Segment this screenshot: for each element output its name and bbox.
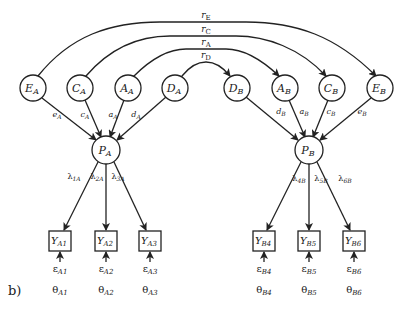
path-label-aB: aB: [299, 107, 309, 117]
loading-label-2A: λ2A: [90, 172, 104, 182]
path-aB: [289, 100, 305, 137]
loading-label-1A: λ1A: [67, 172, 81, 182]
residual-label-A3: εA3: [143, 263, 158, 276]
path-label-cA: cA: [81, 110, 90, 120]
loading-6B: [317, 162, 350, 230]
path-dA: [117, 97, 166, 140]
residual-label-B6: εB6: [347, 263, 362, 276]
residual-variance-B6: θB6: [346, 284, 362, 297]
residual-variance-B5: θB5: [301, 284, 317, 297]
residual-label-A1: εA1: [53, 263, 68, 276]
correlation-arc-rD: [182, 62, 230, 76]
corr-label-rD: rD: [201, 50, 211, 62]
residual-variance-A2: θA2: [98, 284, 114, 297]
residual-variance-A1: θA1: [52, 284, 68, 297]
path-label-aA: aA: [108, 110, 118, 120]
path-label-cB: cB: [327, 107, 336, 117]
path-label-dA: dA: [131, 110, 141, 120]
path-label-dB: dB: [276, 107, 286, 117]
residual-variance-A3: θA3: [142, 284, 158, 297]
residual-label-B4: εB4: [257, 263, 272, 276]
corr-label-rA: rA: [201, 37, 211, 49]
loading-label-5B: λ5B: [314, 174, 328, 184]
panel-label: b): [8, 283, 21, 298]
residual-variance-B4: θB4: [256, 284, 272, 297]
residual-label-A2: εA2: [99, 263, 114, 276]
path-label-eB: eB: [357, 107, 367, 117]
loading-label-6B: λ6B: [338, 174, 352, 184]
twin-sem-diagram: rE rC rA rD EA CA AA DA DB AB CB EB PA P…: [0, 0, 404, 312]
residual-label-B5: εB5: [302, 263, 317, 276]
path-eB: [320, 98, 371, 140]
loading-label-4B: λ4B: [292, 174, 306, 184]
path-label-eA: eA: [52, 110, 62, 120]
corr-label-rC: rC: [201, 24, 211, 36]
path-cB: [313, 100, 328, 137]
loading-4B: [267, 162, 301, 230]
loading-3A: [114, 162, 146, 230]
loading-label-3A: λ3A: [111, 172, 125, 182]
corr-label-rE: rE: [201, 10, 210, 22]
